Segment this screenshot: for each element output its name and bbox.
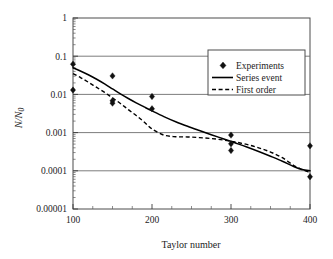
plot-area-frame (73, 18, 310, 209)
legend: Experiments Series event First order (208, 50, 305, 95)
y-tick-label: 0.1 (55, 52, 67, 62)
y-axis-ticks: 10.10.010.0010.00010.00001 (36, 13, 78, 214)
chart-svg: 10.10.010.0010.00010.00001 100200300400 … (0, 0, 333, 259)
x-tick-label: 200 (145, 215, 160, 225)
y-tick-label: 1 (62, 13, 67, 23)
x-axis-title: Taylor number (161, 239, 221, 250)
chart-figure: 10.10.010.0010.00010.00001 100200300400 … (0, 0, 333, 259)
x-tick-label: 400 (303, 215, 318, 225)
legend-label-experiments: Experiments (236, 61, 284, 71)
y-tick-label: 0.001 (46, 128, 68, 138)
y-tick-label: 0.0001 (41, 166, 67, 176)
x-tick-label: 100 (66, 215, 81, 225)
y-tick-label: 0.00001 (36, 204, 67, 214)
legend-label-first-order: First order (236, 85, 277, 95)
x-tick-label: 300 (224, 215, 239, 225)
y-axis-title: N/N0 (13, 107, 26, 129)
legend-label-series-event: Series event (236, 73, 283, 83)
svg-text:N/N0: N/N0 (13, 107, 26, 129)
y-tick-label: 0.01 (50, 90, 67, 100)
y-axis-title-subscript: 0 (17, 107, 26, 111)
